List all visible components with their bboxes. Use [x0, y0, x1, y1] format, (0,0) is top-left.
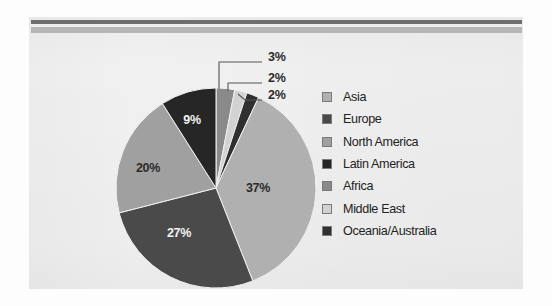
- legend-swatch-icon: [322, 137, 332, 147]
- chart-legend: AsiaEuropeNorth AmericaLatin AmericaAfri…: [322, 86, 502, 242]
- callout-value-label: 2%: [268, 71, 286, 85]
- slice-value-label: 20%: [136, 161, 160, 175]
- legend-item-latin-america[interactable]: Latin America: [322, 153, 502, 175]
- chart-page: 37%27%20%9% 3%2%2% AsiaEuropeNorth Ameri…: [0, 0, 552, 306]
- pie-slice-group: [116, 88, 316, 288]
- legend-item-label: Oceania/Australia: [343, 224, 436, 238]
- legend-item-oceania-australia[interactable]: Oceania/Australia: [322, 220, 502, 242]
- slice-value-label: 37%: [246, 181, 270, 195]
- legend-swatch-icon: [322, 159, 332, 169]
- legend-swatch-icon: [322, 226, 332, 236]
- callout-label-group: 3%2%2%: [268, 50, 286, 102]
- legend-item-label: Africa: [343, 179, 373, 193]
- slice-value-label: 9%: [183, 113, 201, 127]
- legend-item-europe[interactable]: Europe: [322, 108, 502, 130]
- slice-value-label: 27%: [167, 226, 191, 240]
- legend-swatch-icon: [322, 181, 332, 191]
- callout-value-label: 3%: [268, 50, 286, 64]
- callout-value-label: 2%: [268, 88, 286, 102]
- legend-item-label: Middle East: [343, 202, 405, 216]
- legend-item-label: Europe: [343, 112, 382, 126]
- legend-swatch-icon: [322, 92, 332, 102]
- legend-item-asia[interactable]: Asia: [322, 86, 502, 108]
- legend-item-middle-east[interactable]: Middle East: [322, 197, 502, 219]
- leader-line-africa: [219, 62, 262, 89]
- legend-item-label: Latin America: [343, 157, 415, 171]
- legend-swatch-icon: [322, 204, 332, 214]
- legend-item-label: North America: [343, 135, 418, 149]
- legend-item-label: Asia: [343, 90, 366, 104]
- legend-swatch-icon: [322, 114, 332, 124]
- legend-item-africa[interactable]: Africa: [322, 175, 502, 197]
- legend-item-north-america[interactable]: North America: [322, 131, 502, 153]
